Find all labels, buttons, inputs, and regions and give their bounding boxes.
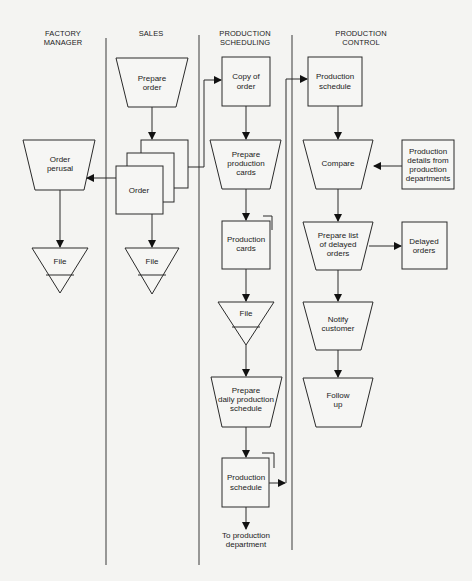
svg-text:perusal: perusal xyxy=(47,164,73,173)
svg-text:schedule: schedule xyxy=(230,404,263,413)
svg-text:schedule: schedule xyxy=(230,483,263,492)
svg-text:daily production: daily production xyxy=(218,395,274,404)
svg-text:Production: Production xyxy=(227,235,265,244)
svg-text:Order: Order xyxy=(129,186,150,195)
svg-text:Production: Production xyxy=(409,147,447,156)
svg-text:customer: customer xyxy=(322,324,355,333)
svg-text:cards: cards xyxy=(236,168,256,177)
svg-text:schedule: schedule xyxy=(319,82,352,91)
node-pc-production-schedule[interactable]: Production schedule xyxy=(308,57,362,106)
svg-text:production: production xyxy=(409,165,446,174)
svg-text:Prepare: Prepare xyxy=(232,386,261,395)
svg-text:SCHEDULING: SCHEDULING xyxy=(220,38,270,47)
node-fm-file[interactable]: File xyxy=(32,248,88,293)
node-copy-of-order[interactable]: Copy of order xyxy=(222,57,270,106)
node-prepare-production-cards[interactable]: Prepare production cards xyxy=(210,140,281,189)
svg-text:Order: Order xyxy=(50,155,71,164)
svg-text:Prepare: Prepare xyxy=(232,150,261,159)
lane-header-production-control: PRODUCTION CONTROL xyxy=(335,29,386,47)
svg-text:Production: Production xyxy=(316,72,354,81)
node-order-perusal[interactable]: Order perusal xyxy=(23,140,95,190)
node-delayed-orders[interactable]: Delayed orders xyxy=(402,222,447,269)
svg-text:orders: orders xyxy=(327,249,350,258)
svg-text:File: File xyxy=(240,309,253,318)
svg-text:File: File xyxy=(146,257,159,266)
svg-text:of delayed: of delayed xyxy=(320,240,357,249)
node-sales-file[interactable]: File xyxy=(125,248,179,294)
svg-text:FACTORY: FACTORY xyxy=(45,29,81,38)
node-prepare-delayed-list[interactable]: Prepare list of delayed orders xyxy=(303,222,373,270)
node-production-cards[interactable]: Production cards xyxy=(222,216,272,269)
svg-text:order: order xyxy=(143,83,162,92)
svg-text:PRODUCTION: PRODUCTION xyxy=(219,29,270,38)
lane-header-production-scheduling: PRODUCTION SCHEDULING xyxy=(219,29,270,47)
node-ps-production-schedule[interactable]: Production schedule xyxy=(222,453,274,507)
svg-text:departments: departments xyxy=(406,174,450,183)
svg-text:production: production xyxy=(227,159,264,168)
node-order-multidocument[interactable]: Order xyxy=(116,140,188,214)
svg-text:Notify: Notify xyxy=(328,315,348,324)
lane-header-sales: SALES xyxy=(139,29,164,38)
svg-text:cards: cards xyxy=(236,244,256,253)
node-ps-file[interactable]: File xyxy=(218,302,274,345)
node-follow-up[interactable]: Follow up xyxy=(303,378,373,427)
node-compare[interactable]: Compare xyxy=(303,140,373,189)
svg-text:Delayed: Delayed xyxy=(409,237,438,246)
svg-text:MANAGER: MANAGER xyxy=(44,38,83,47)
svg-text:up: up xyxy=(334,400,343,409)
svg-text:department: department xyxy=(226,540,267,549)
node-notify-customer[interactable]: Notify customer xyxy=(303,302,373,350)
to-production-department-label: To production department xyxy=(222,531,270,549)
node-prepare-order[interactable]: Prepare order xyxy=(116,58,188,107)
svg-text:Prepare list: Prepare list xyxy=(318,231,359,240)
svg-text:Production: Production xyxy=(227,473,265,482)
svg-text:order: order xyxy=(237,82,256,91)
svg-text:File: File xyxy=(54,257,67,266)
svg-text:PRODUCTION: PRODUCTION xyxy=(335,29,386,38)
svg-text:orders: orders xyxy=(413,246,436,255)
flowchart-canvas: FACTORY MANAGER SALES PRODUCTION SCHEDUL… xyxy=(0,0,472,581)
svg-text:Prepare: Prepare xyxy=(138,74,167,83)
svg-text:SALES: SALES xyxy=(139,29,164,38)
svg-text:Copy of: Copy of xyxy=(232,72,260,81)
svg-text:Follow: Follow xyxy=(326,391,349,400)
svg-text:Compare: Compare xyxy=(322,159,355,168)
lane-header-factory-manager: FACTORY MANAGER xyxy=(44,29,83,47)
svg-text:To production: To production xyxy=(222,531,270,540)
node-prepare-daily-schedule[interactable]: Prepare daily production schedule xyxy=(211,377,282,427)
node-production-details[interactable]: Production details from production depar… xyxy=(402,140,454,189)
svg-text:CONTROL: CONTROL xyxy=(342,38,379,47)
svg-text:details from: details from xyxy=(407,156,449,165)
